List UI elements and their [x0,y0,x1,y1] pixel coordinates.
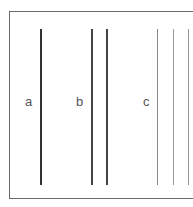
label-a: a [25,94,32,109]
line-b-2 [106,29,108,185]
diagram-frame [9,11,193,199]
line-c-1 [157,29,158,185]
line-a-1 [40,29,42,185]
label-c: c [143,94,150,109]
line-c-2 [173,29,174,185]
line-c-3 [188,29,189,185]
line-b-1 [91,29,93,185]
label-b: b [76,94,83,109]
